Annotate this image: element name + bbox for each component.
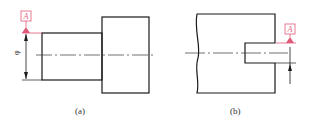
svg-text:A: A (287, 25, 293, 34)
caption-b: (b) (230, 106, 241, 116)
datum-a-panel-b: A (276, 24, 296, 43)
panel-b (185, 14, 296, 93)
arrow-up-icon (288, 64, 292, 71)
small-cylinder-outline (42, 33, 102, 80)
technical-drawing: A φ A (0, 0, 311, 124)
datum-a-panel-a: A (21, 11, 42, 33)
svg-text:A: A (23, 12, 29, 21)
phi-symbol: φ (12, 50, 21, 55)
panel-a (22, 17, 154, 93)
part-outline-with-slot (196, 14, 275, 93)
arrow-up-icon (24, 34, 28, 41)
datum-triangle-icon (22, 27, 30, 33)
caption-a: (a) (75, 106, 85, 116)
arrow-down-icon (24, 72, 28, 79)
datum-triangle-icon (286, 37, 294, 43)
